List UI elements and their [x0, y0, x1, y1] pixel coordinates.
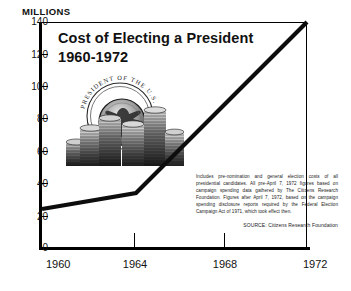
x-tick-label: 1972: [303, 258, 327, 270]
presidential-seal-coins-illustration: PRESIDENT OF THE U.S.: [66, 66, 184, 166]
y-tick-100: 100: [0, 82, 48, 92]
chart-title: Cost of Electing a President: [58, 29, 238, 47]
y-tick-mark: [42, 151, 48, 152]
chart-figure: MILLIONS 140 120 100 80 60 40: [0, 0, 351, 291]
y-tick-20: 20: [0, 212, 48, 222]
x-tick-label: 1964: [123, 258, 147, 270]
y-tick-mark: [42, 216, 48, 217]
chart-subtitle: 1960-1972: [58, 48, 238, 66]
y-tick-mark: [42, 118, 48, 119]
coin-stack-mid-left: [99, 115, 121, 166]
y-tick-140: 140: [0, 17, 48, 27]
y-tick-label: 0: [14, 243, 48, 253]
y-tick-0: 0: [0, 243, 48, 253]
coin-stack-mid-right: [122, 121, 144, 166]
y-tick-mark: [42, 183, 48, 184]
y-tick-120: 120: [0, 50, 48, 60]
y-tick-80: 80: [0, 114, 48, 124]
y-tick-label: 140: [14, 17, 48, 27]
x-tick-mark-1964: [134, 233, 135, 247]
y-tick-mark: [42, 54, 48, 55]
y-tick-40: 40: [0, 179, 48, 189]
x-tick-label: 1968: [213, 258, 237, 270]
y-tick-mark: [42, 86, 48, 87]
y-tick-60: 60: [0, 147, 48, 157]
x-tick-label: 1960: [46, 258, 70, 270]
coin-stack-far-right: [165, 129, 184, 166]
coin-stack-right: [144, 107, 166, 166]
chart-title-block: Cost of Electing a President 1960-1972: [58, 29, 238, 66]
chart-footnote: Includes pre-nomination and general elec…: [196, 173, 338, 216]
coin-stack-left: [80, 125, 102, 166]
x-tick-mark-1968: [224, 233, 225, 247]
chart-source-note: SOURCE: Citizens Research Foundation: [196, 222, 338, 229]
